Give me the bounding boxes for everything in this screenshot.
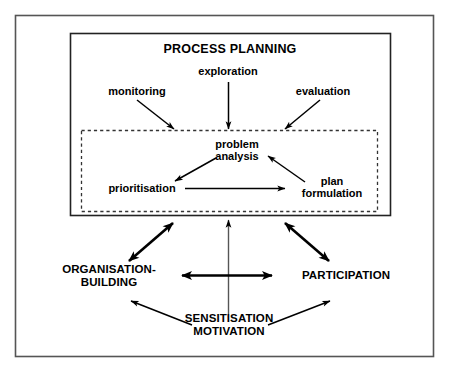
label-monitoring: monitoring: [87, 85, 187, 97]
label-organisation-building: ORGANISATION- BUILDING: [43, 263, 175, 289]
page-title: PROCESS PLANNING: [130, 42, 330, 56]
label-plan-formulation: plan formulation: [283, 175, 381, 200]
diagram-canvas: PROCESS PLANNING exploration monitoring …: [0, 0, 451, 375]
label-exploration: exploration: [178, 65, 278, 77]
label-prioritisation: prioritisation: [95, 182, 189, 194]
label-participation: PARTICIPATION: [284, 269, 408, 282]
label-evaluation: evaluation: [273, 85, 373, 97]
label-sensitisation-motivation: SENSITISATION MOTIVATION: [163, 312, 295, 338]
label-problem-analysis: problem analysis: [187, 138, 287, 163]
